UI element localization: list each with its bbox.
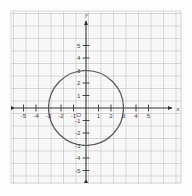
y-axis-label: y — [84, 11, 88, 18]
x-tick-label: -5 — [21, 112, 27, 119]
y-tick-label: 2 — [77, 79, 81, 86]
coordinate-plane-plot: -5 -4 -3 -2 -1 1 2 3 4 5 5 4 3 2 1 -1 -2… — [0, 0, 192, 196]
y-tick-label: 1 — [77, 92, 81, 99]
x-tick-label: -3 — [46, 112, 52, 119]
y-tick-label: 4 — [77, 54, 81, 61]
y-tick-label: 5 — [77, 42, 81, 49]
x-tick-label: 4 — [134, 112, 138, 119]
y-tick-label: 3 — [77, 67, 81, 74]
y-tick-label: -3 — [75, 142, 81, 149]
x-tick-label: -4 — [33, 112, 39, 119]
x-tick-label: 3 — [122, 112, 126, 119]
graph-figure: -5 -4 -3 -2 -1 1 2 3 4 5 5 4 3 2 1 -1 -2… — [0, 0, 192, 196]
x-axis-label: x — [176, 105, 180, 112]
grid-paper — [11, 11, 182, 184]
x-tick-label: 5 — [147, 112, 151, 119]
y-tick-label: -1 — [75, 117, 81, 124]
origin-label: O — [76, 111, 81, 118]
y-tick-label: -4 — [75, 154, 81, 161]
y-tick-label: -2 — [75, 129, 81, 136]
x-tick-label: 1 — [97, 112, 101, 119]
x-tick-label: -2 — [58, 112, 64, 119]
x-tick-label: 2 — [109, 112, 113, 119]
y-tick-label: -5 — [75, 167, 81, 174]
